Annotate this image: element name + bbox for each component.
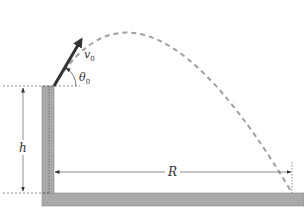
projectile-diagram: h v0 θ0 R (0, 0, 304, 209)
angle-label: θ0 (79, 71, 90, 86)
angle-arc (66, 68, 76, 86)
tower (42, 86, 54, 193)
ground (42, 193, 304, 206)
velocity-label: v0 (84, 48, 95, 63)
velocity-arrow (54, 40, 81, 86)
height-label: h (19, 141, 27, 155)
range-label: R (167, 165, 177, 179)
